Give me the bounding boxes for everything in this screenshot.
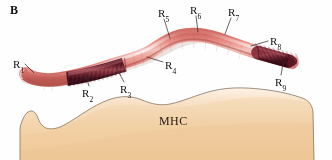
- residue-label-r6-sub: 6: [198, 12, 202, 21]
- residue-label-r2-text: R: [82, 87, 89, 99]
- residue-label-r8: R8: [270, 36, 281, 47]
- residue-label-r5-text: R: [158, 7, 165, 19]
- leader-R7: [225, 18, 231, 34]
- residue-label-r5-sub: 5: [166, 15, 170, 24]
- residue-label-r8-sub: 8: [278, 43, 282, 52]
- residue-label-r3-text: R: [120, 83, 127, 95]
- residue-label-r7: R7: [228, 7, 239, 18]
- residue-label-r7-sub: 7: [236, 14, 240, 23]
- residue-label-r2: R2: [82, 88, 93, 99]
- residue-label-r3: R3: [120, 84, 131, 95]
- residue-label-r4-sub: 4: [173, 67, 177, 76]
- panel-letter: B: [10, 4, 18, 16]
- residue-label-r1-sub: 1: [21, 66, 25, 75]
- residue-label-r4-text: R: [165, 59, 172, 71]
- peptide-chain: [21, 31, 306, 92]
- residue-label-r9: R9: [275, 77, 286, 88]
- residue-label-r9-text: R: [275, 76, 282, 88]
- residue-label-r1-text: R: [13, 58, 20, 70]
- residue-label-r5: R5: [158, 8, 169, 19]
- mhc-label: MHC: [159, 115, 188, 127]
- figure-panel-b: B R1 R2 R3 R4 R5 R6 R7 R8 R9 MHC: [0, 0, 332, 160]
- residue-label-r4: R4: [165, 60, 176, 71]
- residue-label-r7-text: R: [228, 6, 235, 18]
- residue-label-r6: R6: [190, 5, 201, 16]
- residue-label-r3-sub: 3: [128, 91, 132, 100]
- residue-label-r2-sub: 2: [90, 95, 94, 104]
- residue-label-r9-sub: 9: [283, 84, 287, 93]
- residue-label-r1: R1: [13, 59, 24, 70]
- residue-label-r6-text: R: [190, 4, 197, 16]
- residue-label-r8-text: R: [270, 35, 277, 47]
